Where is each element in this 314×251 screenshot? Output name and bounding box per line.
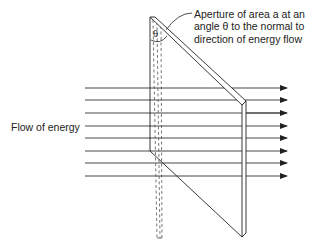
aperture-annotation: Aperture of area a at an angle θ to the … <box>194 8 305 45</box>
annotation-leader-line <box>166 13 192 30</box>
annotation-line-1: Aperture of area a at an <box>194 8 305 20</box>
energy-flow-arrows <box>85 88 287 176</box>
theta-symbol: θ <box>153 28 158 40</box>
flow-of-energy-label: Flow of energy <box>11 121 80 133</box>
annotation-line-2: angle θ to the normal to <box>194 20 305 32</box>
tilted-aperture <box>150 17 246 237</box>
annotation-line-3: direction of energy flow <box>194 33 305 45</box>
projected-aperture-dashed <box>153 20 162 238</box>
